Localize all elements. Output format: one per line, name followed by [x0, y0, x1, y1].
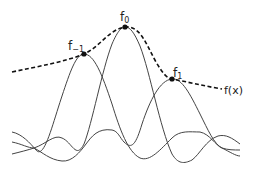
- sinc-interpolation-diagram: [0, 0, 254, 176]
- reconstructed-function-dashed: [12, 27, 222, 89]
- sinc-curve-plus1: [12, 79, 240, 161]
- label-f1: f1: [173, 67, 182, 81]
- label-f-minus1: f−1: [68, 40, 84, 54]
- sample-dot-0: [122, 24, 127, 29]
- sinc-curve-minus1: [12, 54, 240, 159]
- label-fx: f(x): [224, 85, 243, 96]
- label-f0: f0: [120, 11, 129, 25]
